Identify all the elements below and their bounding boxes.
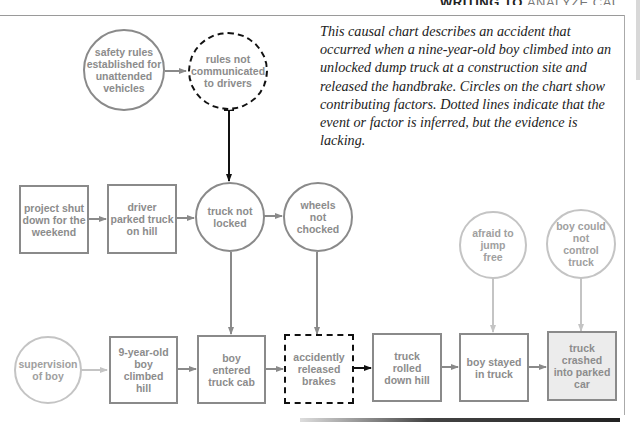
event-truck-crashed: truck crashed into parked car <box>547 331 617 401</box>
factor-truck-not-locked: truck not locked <box>195 182 265 252</box>
event-boy-entered-cab: boy entered truck cab <box>197 335 266 404</box>
factor-wheels-not-chocked: wheels not chocked <box>283 182 353 252</box>
event-released-brakes: accidently released brakes <box>284 334 354 404</box>
event-truck-rolled: truck rolled down hill <box>372 333 442 402</box>
event-driver-parked: driver parked truck on hill <box>107 184 177 254</box>
factor-safety-rules: safety rules established for unattended … <box>83 29 165 111</box>
event-boy-stayed: boy stayed in truck <box>459 333 529 402</box>
factor-rules-not-communicated: rules not communicated to drivers <box>188 32 268 110</box>
factor-afraid-to-jump: afraid to jump free <box>459 211 527 279</box>
factor-boy-could-not-control: boy could not control truck <box>546 209 616 279</box>
event-project-shut-down: project shut down for the weekend <box>19 185 89 254</box>
factor-supervision-of-boy: supervision of boy <box>14 336 82 404</box>
event-boy-climbed-hill: 9-year-old boy climbed hill <box>109 336 178 404</box>
